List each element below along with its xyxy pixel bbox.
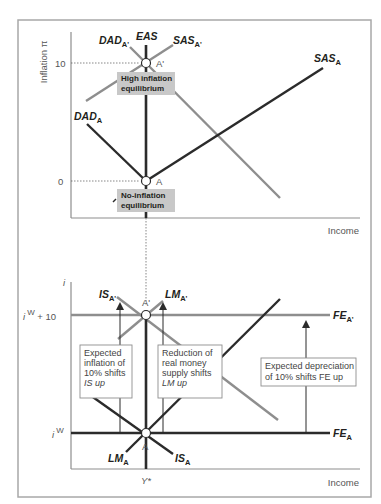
high-inflation-line1: High inflation xyxy=(121,74,172,83)
is-shift-note-line1: Expected xyxy=(84,348,122,358)
eas-label: EAS xyxy=(136,30,158,42)
point-a-prime-lower-label: A' xyxy=(142,297,150,308)
fe-shift-note-line2: of 10% shifts FE up xyxy=(265,372,343,382)
tick-pi-10: 10 xyxy=(55,58,66,69)
tick-y-star: Y* xyxy=(141,475,151,486)
diagram-canvas: High inflation equilibrium No-inflation … xyxy=(0,0,381,504)
is-shift-note-line2: inflation of xyxy=(84,358,126,368)
upper-y-axis-label: Inflation π xyxy=(38,40,49,83)
point-a-lower xyxy=(142,429,151,438)
lower-x-axis-label: Income xyxy=(328,477,359,488)
lm-shift-note-line2: real money xyxy=(162,358,207,368)
point-a-lower-label: A xyxy=(142,441,149,452)
high-inflation-line2: equilibrium xyxy=(121,84,164,93)
point-a-prime-lower xyxy=(142,311,151,320)
lm-shift-note-line1: Reduction of xyxy=(162,348,213,358)
point-a-upper xyxy=(142,177,151,186)
point-a-prime-upper xyxy=(142,59,151,68)
point-a-label: A xyxy=(156,176,163,187)
lm-shift-note-line3: supply shifts xyxy=(162,368,212,378)
upper-x-axis-label: Income xyxy=(328,225,359,236)
no-inflation-line1: No-inflation xyxy=(121,191,166,200)
tick-pi-0: 0 xyxy=(58,176,63,187)
lm-shift-note-line4: LM up xyxy=(162,378,187,388)
is-shift-note-line4: IS up xyxy=(84,378,105,388)
fe-shift-note-line1: Expected depreciation xyxy=(265,361,354,371)
is-shift-note-line3: 10% shifts xyxy=(84,368,126,378)
point-a-prime-label: A' xyxy=(156,58,164,69)
no-inflation-line2: equilibrium xyxy=(121,201,164,210)
